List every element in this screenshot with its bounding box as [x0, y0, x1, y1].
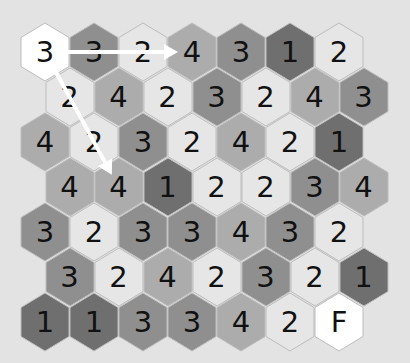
hex-value: 4 — [217, 293, 265, 351]
hex-value: 3 — [168, 293, 216, 351]
hex-value: 2 — [266, 293, 314, 351]
hex-cell[interactable]: 1 — [21, 293, 69, 351]
hex-cell[interactable]: 3 — [119, 293, 167, 351]
hex-cell[interactable]: 2 — [266, 293, 314, 351]
hex-value: 3 — [119, 293, 167, 351]
hex-value: 1 — [21, 293, 69, 351]
hex-cell[interactable]: 3 — [168, 293, 216, 351]
hex-cell[interactable]: 4 — [217, 293, 265, 351]
hex-board: 3324312242324342324214412234323343232423… — [0, 0, 410, 363]
hex-cell-finish[interactable]: F — [315, 293, 363, 351]
hex-value: F — [315, 293, 363, 351]
hex-cell[interactable]: 1 — [70, 293, 118, 351]
hex-value: 1 — [70, 293, 118, 351]
